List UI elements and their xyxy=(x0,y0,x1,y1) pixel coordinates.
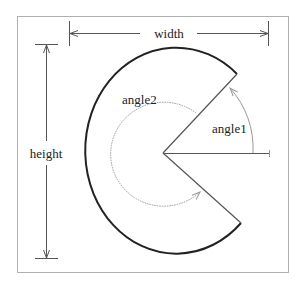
angle1-label: angle1 xyxy=(212,121,247,136)
width-dimension: width xyxy=(70,21,269,46)
width-label: width xyxy=(154,26,184,41)
lower-radial-line xyxy=(163,153,241,223)
height-label: height xyxy=(30,146,63,161)
arc-diagram: width height angle1 angle2 xyxy=(0,0,301,286)
angle2-label: angle2 xyxy=(122,92,157,107)
outer-arc xyxy=(85,48,241,254)
diagram-frame xyxy=(18,17,289,273)
height-dimension: height xyxy=(30,45,63,259)
upper-radial-line xyxy=(163,74,237,153)
angle2-arc xyxy=(111,102,200,206)
